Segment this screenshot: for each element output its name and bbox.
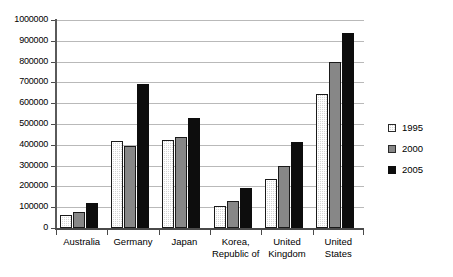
bar — [291, 142, 303, 228]
legend-item[interactable]: 1995 — [388, 117, 450, 138]
bar — [175, 137, 187, 228]
x-tick-mark — [261, 230, 262, 235]
y-axis-line — [55, 19, 57, 230]
plot-area — [56, 20, 364, 228]
bar — [137, 84, 149, 228]
x-tick-mark — [159, 230, 160, 235]
legend-item[interactable]: 2000 — [388, 138, 450, 159]
bar — [214, 206, 226, 228]
bar — [188, 118, 200, 228]
x-category-label: United States — [307, 236, 370, 259]
legend-swatch-icon — [388, 124, 396, 132]
x-tick-mark — [56, 230, 57, 235]
legend-label: 2000 — [402, 144, 423, 154]
x-tick-mark — [107, 230, 108, 235]
y-tick-label: 900000 — [19, 36, 48, 45]
bars-layer — [56, 20, 364, 228]
bar — [60, 215, 72, 228]
y-tick-label: 800000 — [19, 57, 48, 66]
chart-legend: 199520002005 — [388, 117, 450, 180]
bar — [162, 140, 174, 228]
y-tick-label: 700000 — [19, 77, 48, 86]
x-tick-mark — [363, 230, 364, 235]
y-axis: 0100000200000300000400000500000600000700… — [0, 0, 52, 277]
bar — [227, 201, 239, 228]
y-tick-label: 100000 — [19, 202, 48, 211]
bar — [265, 179, 277, 229]
x-tick-mark — [313, 230, 314, 235]
y-tick-label: 400000 — [19, 140, 48, 149]
bar — [73, 212, 85, 228]
legend-swatch-icon — [388, 145, 396, 153]
y-tick-label: 1000000 — [14, 15, 48, 24]
x-tick-mark — [210, 230, 211, 235]
bar — [342, 33, 354, 228]
legend-swatch-icon — [388, 166, 396, 174]
y-tick-label: 600000 — [19, 98, 48, 107]
bar — [111, 141, 123, 228]
bar — [329, 62, 341, 228]
bar — [124, 146, 136, 228]
bar — [86, 203, 98, 228]
bar — [316, 94, 328, 228]
y-tick-label: 200000 — [19, 181, 48, 190]
legend-item[interactable]: 2005 — [388, 159, 450, 180]
y-tick-label: 500000 — [19, 119, 48, 128]
legend-label: 2005 — [402, 165, 423, 175]
y-tick-label: 300000 — [19, 161, 48, 170]
bar — [240, 188, 252, 228]
bar-chart: 0100000200000300000400000500000600000700… — [0, 0, 453, 277]
legend-label: 1995 — [402, 123, 423, 133]
y-tick-label: 0 — [43, 223, 48, 232]
x-axis-labels: AustraliaGermanyJapanKorea, Republic ofU… — [56, 236, 364, 276]
bar — [278, 166, 290, 228]
